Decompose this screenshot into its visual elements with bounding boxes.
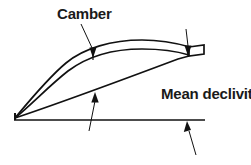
mid-declivity-leader-line <box>89 101 95 131</box>
diagram-canvas <box>0 0 251 165</box>
right-declivity-arrowhead <box>184 121 191 132</box>
airfoil-diagram: Camber Mean declivity <box>0 0 251 165</box>
right-declivity-leader-line <box>189 131 196 155</box>
mean-declivity-label: Mean declivity <box>161 86 251 101</box>
upper-surface-curve <box>15 40 190 118</box>
camber-label: Camber <box>57 6 112 21</box>
mean-camber-line <box>15 49 189 118</box>
camber-leader-line <box>81 24 93 50</box>
mid-declivity-arrowhead <box>91 92 98 103</box>
trailing-edge-block <box>189 45 204 56</box>
right-leader-line <box>186 29 188 46</box>
